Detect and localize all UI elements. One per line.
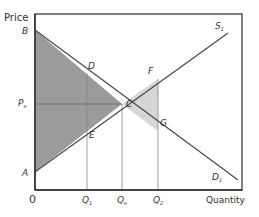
demand-label: D1 bbox=[212, 172, 222, 183]
point-f-label: F bbox=[148, 66, 154, 76]
point-a-label: A bbox=[21, 168, 28, 178]
pe-label: Pe bbox=[18, 98, 27, 109]
x-axis-label: Quantity bbox=[206, 195, 246, 205]
point-d-label: D bbox=[88, 61, 95, 71]
point-g-label: G bbox=[160, 118, 167, 128]
surplus-diagram: Price Quantity 0 B A D E C F G S1 D1 Pe … bbox=[0, 0, 259, 217]
y-axis-label: Price bbox=[4, 12, 28, 23]
origin-label: 0 bbox=[29, 193, 36, 206]
q1-label: Q1 bbox=[82, 195, 92, 206]
qe-label: Qe bbox=[117, 195, 127, 206]
total-surplus-area bbox=[35, 30, 122, 172]
point-c-label: C bbox=[126, 99, 133, 109]
q2-label: Q2 bbox=[153, 195, 163, 206]
supply-label: S1 bbox=[215, 21, 224, 32]
point-b-label: B bbox=[22, 26, 28, 36]
point-e-label: E bbox=[89, 130, 95, 140]
